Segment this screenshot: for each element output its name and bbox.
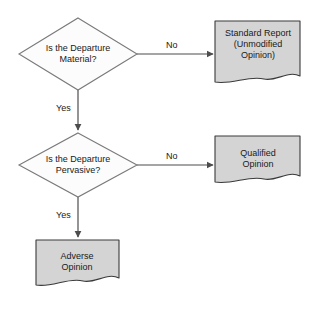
decision-node-pervasive[interactable] [19,133,137,197]
flowchart-graphics [0,0,318,309]
document-node-standard-report[interactable] [215,21,300,83]
flowchart-canvas: Is the Departure Material? Is the Depart… [0,0,318,309]
decision-node-material[interactable] [19,18,137,90]
document-node-qualified-opinion[interactable] [215,136,300,183]
document-node-adverse-opinion[interactable] [36,240,119,286]
